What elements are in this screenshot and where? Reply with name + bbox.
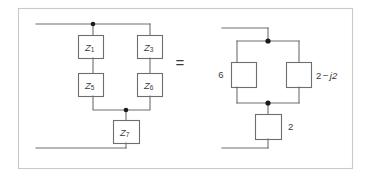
component-resistor-2-series <box>256 115 282 140</box>
component-resistor-2-series-label: 2 <box>288 121 293 132</box>
wire-parallel-rejoin-left <box>93 96 150 110</box>
component-resistor-6 <box>232 63 257 88</box>
component-resistor-6-label: 6 <box>218 69 223 80</box>
junction-node-bottom-left <box>124 108 129 113</box>
circuit-diagram-canvas: Z1 Z3 Z5 Z6 Z7 <box>0 0 369 182</box>
right-circuit-group: 6 2−j2 2 <box>218 28 338 148</box>
component-impedance-2-j2 <box>287 63 312 88</box>
junction-node-bottom-right <box>265 100 270 105</box>
left-circuit-group: Z1 Z3 Z5 Z6 Z7 <box>36 22 163 148</box>
junction-node-top-right <box>265 38 270 43</box>
junction-node-top-left <box>91 22 96 27</box>
figure-frame <box>19 9 353 169</box>
circuit-figure: Z1 Z3 Z5 Z6 Z7 <box>0 0 369 182</box>
equals-sign: = <box>176 54 185 71</box>
component-impedance-2-j2-label: 2−j2 <box>316 69 338 80</box>
